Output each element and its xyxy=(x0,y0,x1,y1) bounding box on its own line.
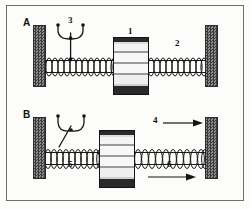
mass-block-panel-a xyxy=(113,37,149,95)
panel-b: B xyxy=(7,104,245,201)
left-spring-label-5: 5 xyxy=(68,160,73,169)
block-label-1: 1 xyxy=(128,27,133,36)
figure-frame: A xyxy=(6,5,244,201)
callout-label-3: 3 xyxy=(68,16,73,25)
panel-b-letter: B xyxy=(23,110,30,120)
right-wall-panel-a xyxy=(205,25,218,87)
right-spring-label-2: 2 xyxy=(175,39,180,48)
mass-block-panel-b xyxy=(99,130,135,188)
spring-mass-figure: A xyxy=(0,0,251,209)
upper-right-arrow-icon xyxy=(163,118,203,128)
upper-arrow-label-4: 4 xyxy=(153,116,158,125)
right-wall-panel-b xyxy=(205,117,218,179)
callout-leader-3 xyxy=(53,19,89,61)
panel-a: A xyxy=(7,6,245,104)
lower-arrow-label-6: 6 xyxy=(167,160,172,169)
lower-right-arrow-icon xyxy=(148,172,196,182)
right-spring-panel-a xyxy=(148,53,206,79)
panel-a-letter: A xyxy=(23,18,30,28)
callout-leader-panel-b xyxy=(53,110,89,150)
